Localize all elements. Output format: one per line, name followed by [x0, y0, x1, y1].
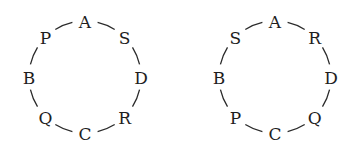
circle-arc-segment	[322, 47, 329, 64]
circle-arc-segment	[322, 90, 329, 107]
circle-arc-segment	[288, 22, 305, 29]
node-label: C	[78, 124, 91, 144]
circle-arc-segment	[132, 90, 139, 107]
node-label: Q	[38, 108, 52, 128]
circle-arc-segment	[132, 47, 139, 64]
circle-arc-segment	[55, 22, 72, 29]
circle-arc-segment	[245, 22, 262, 29]
circle-arc-segment	[288, 124, 305, 131]
node-label: C	[268, 124, 281, 144]
circle-arc-segment	[30, 47, 37, 64]
node-label: R	[118, 108, 132, 128]
node-label: A	[268, 12, 282, 32]
diagram-canvas: A S D R C Q B P A R D Q C P B S	[0, 0, 354, 152]
circle-arc-segment	[220, 90, 227, 107]
circle-arc-segment	[55, 124, 72, 131]
circle-arc-segment	[98, 124, 115, 131]
circle-arc-segment	[98, 22, 115, 29]
node-label: A	[78, 12, 92, 32]
node-label: B	[23, 68, 36, 88]
circle-diagram-left: A S D R C Q B P	[23, 12, 148, 144]
node-label: D	[134, 68, 148, 88]
node-label: P	[230, 108, 241, 128]
node-label: Q	[308, 108, 322, 128]
node-label: D	[324, 68, 338, 88]
node-label: B	[213, 68, 226, 88]
circle-arc-segment	[220, 47, 227, 64]
circle-arc-segment	[30, 90, 37, 107]
circle-arc-segment	[245, 124, 262, 131]
circle-diagram-right: A R D Q C P B S	[213, 12, 338, 144]
node-label: S	[119, 28, 131, 48]
node-label: P	[40, 28, 51, 48]
node-label: R	[308, 28, 322, 48]
node-label: S	[230, 28, 242, 48]
